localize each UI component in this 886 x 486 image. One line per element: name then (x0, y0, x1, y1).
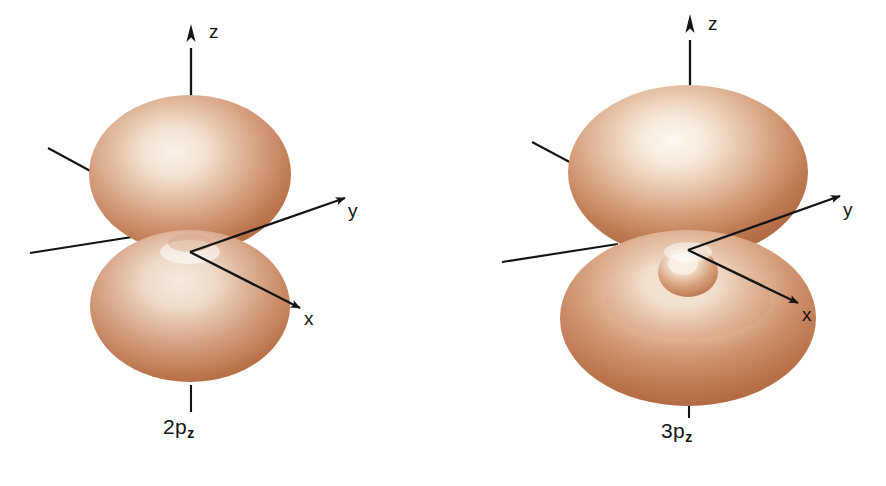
caption-subscript-text: z (187, 425, 194, 441)
caption-main-text: 3p (661, 419, 685, 442)
y-axis-label: y (843, 200, 853, 219)
orbital-diagram-2pz: z y x 2pz (0, 0, 440, 486)
z-axis-arrowhead (685, 14, 694, 33)
orbital-diagram-3pz: z y x 3pz (440, 0, 886, 486)
orbital-caption-3pz: 3pz (661, 420, 693, 441)
node-waist-shade (168, 234, 212, 252)
caption-subscript-text: z (685, 429, 692, 445)
orbital-figure: z y x 2pz (0, 0, 886, 486)
y-axis-label: y (348, 201, 358, 220)
z-axis-label: z (209, 22, 219, 41)
y-axis-negative-tail (30, 237, 132, 253)
x-axis-label: x (304, 309, 314, 328)
caption-main-text: 2p (163, 415, 187, 438)
z-axis-label: z (708, 14, 718, 33)
orbital-3pz-svg (440, 0, 886, 486)
x-axis-label: x (802, 305, 812, 324)
upper-lobe (89, 95, 291, 253)
z-axis-arrowhead (186, 24, 195, 42)
orbital-2pz-svg (0, 0, 440, 486)
orbital-caption-2pz: 2pz (163, 416, 195, 437)
